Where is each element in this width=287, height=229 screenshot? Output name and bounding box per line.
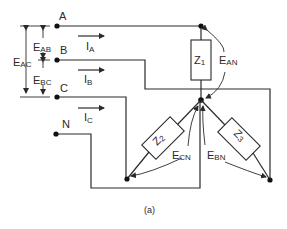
ebn-label: EBN <box>207 149 226 162</box>
three-phase-wye-circuit-diagram: A IA B IB C IC N EAB EBC <box>0 0 287 229</box>
impedance-z2: Z2 <box>124 100 201 182</box>
ebc-label: EBC <box>33 74 52 87</box>
terminal-b-dot <box>54 57 59 62</box>
terminal-n-dot <box>53 131 58 136</box>
line-a: A IA <box>54 10 201 54</box>
terminal-a-dot <box>54 23 59 28</box>
terminal-c-dot <box>54 94 59 99</box>
terminal-n-label: N <box>62 118 70 130</box>
figure-caption: (a) <box>144 205 155 215</box>
line-voltage-markers: EAB EBC EAC <box>13 26 52 97</box>
ean-label: EAN <box>219 54 238 67</box>
eab-label: EAB <box>33 41 51 54</box>
terminal-b-label: B <box>60 44 67 56</box>
current-a-label: IA <box>86 40 95 54</box>
current-b-label: IB <box>84 73 92 87</box>
line-n: N <box>53 100 200 188</box>
terminal-c-label: C <box>60 82 68 94</box>
impedance-z3: Z3 <box>201 100 273 183</box>
line-c: C IC <box>54 82 126 179</box>
eac-label: EAC <box>13 56 32 69</box>
ecn-label: ECN <box>172 149 191 162</box>
terminal-a-label: A <box>59 10 67 22</box>
current-c-label: IC <box>84 111 93 125</box>
